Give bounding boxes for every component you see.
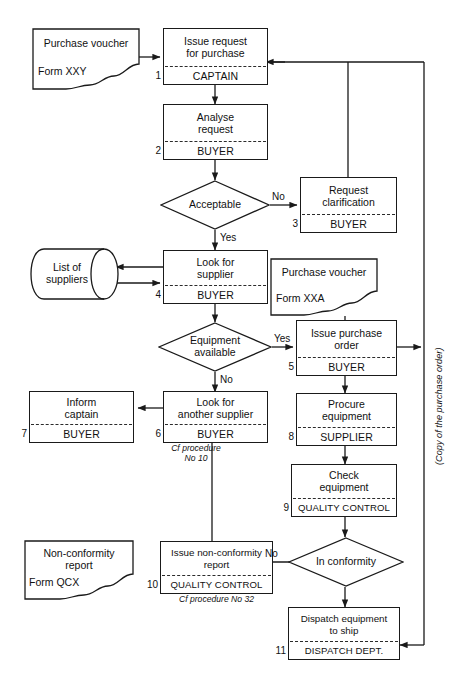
document-form-code: Form QCX — [29, 577, 79, 589]
decision-label: Acceptable — [185, 199, 245, 211]
edge-label-conformity-no: No — [265, 548, 278, 559]
step-box-3[interactable]: Requestclarification BUYER — [300, 177, 397, 233]
step-actor: BUYER — [164, 142, 267, 159]
step-actor: BUYER — [30, 425, 133, 442]
step-box-4[interactable]: Look forsupplier BUYER — [163, 250, 268, 304]
step-action: Procureequipment — [297, 394, 396, 427]
step-number-3: 3 — [287, 218, 298, 229]
step-box-10[interactable]: Issue non-conformityreport QUALITY CONTR… — [160, 541, 273, 594]
step-actor: QUALITY CONTROL — [292, 499, 396, 516]
datastore-label: List ofsuppliers — [34, 248, 100, 300]
step-box-9[interactable]: Checkequipment QUALITY CONTROL — [291, 464, 397, 517]
document-form-code: Form XXY — [38, 66, 86, 78]
step-number-2: 2 — [150, 145, 161, 156]
step-actor: DISPATCH DEPT. — [289, 642, 399, 659]
step-action: Look forsupplier — [164, 251, 267, 285]
document-non-conformity-report: Non-conformityreport Form QCX — [24, 540, 134, 600]
step-actor: QUALITY CONTROL — [161, 576, 272, 593]
step-action: Look foranother supplier — [164, 392, 267, 424]
decision-acceptable[interactable]: Acceptable — [160, 180, 270, 230]
step-number-6: 6 — [150, 428, 161, 439]
step-number-10: 10 — [143, 579, 158, 590]
step-box-8[interactable]: Procureequipment SUPPLIER — [296, 393, 397, 446]
decision-equipment-available[interactable]: Equipmentavailable — [158, 322, 272, 372]
step-box-1[interactable]: Issue requestfor purchase CAPTAIN — [163, 28, 268, 85]
step-actor: BUYER — [164, 286, 267, 303]
step-6-note: Cf procedure No 10 — [160, 444, 232, 463]
step-10-note: Cf procedure No 32 — [160, 595, 273, 605]
step-number-1: 1 — [150, 70, 161, 81]
step-box-2[interactable]: Analyserequest BUYER — [163, 104, 268, 160]
edge-label-acceptable-no: No — [272, 191, 285, 202]
document-title: Purchase voucher — [32, 38, 140, 50]
decision-label: In conformity — [312, 556, 380, 568]
step-actor: BUYER — [297, 358, 396, 375]
decision-label: Equipmentavailable — [186, 335, 244, 358]
document-title: Purchase voucher — [270, 267, 378, 279]
step-action: Analyserequest — [164, 105, 267, 141]
document-purchase-voucher-xxy: Purchase voucher Form XXY — [32, 28, 140, 90]
step-action: Dispatch equipmentto ship — [289, 608, 399, 641]
step-action: Issue purchaseorder — [297, 321, 396, 357]
document-form-code: Form XXA — [276, 293, 324, 305]
step-action: Checkequipment — [292, 465, 396, 498]
step-action: Issue non-conformityreport — [161, 542, 272, 575]
datastore-list-of-suppliers: List ofsuppliers — [30, 248, 120, 300]
step-actor: CAPTAIN — [164, 67, 267, 84]
document-purchase-voucher-xxa: Purchase voucher Form XXA — [270, 258, 378, 316]
step-actor: BUYER — [301, 215, 396, 232]
edge-label-equipment-no: No — [220, 374, 233, 385]
step-box-11[interactable]: Dispatch equipmentto ship DISPATCH DEPT. — [288, 607, 400, 660]
label-copy-of-purchase-order: (Copy of the purchase order) — [434, 348, 444, 465]
step-box-6[interactable]: Look foranother supplier BUYER — [163, 391, 268, 443]
step-actor: SUPPLIER — [297, 428, 396, 445]
edge-label-acceptable-yes: Yes — [220, 232, 236, 243]
step-number-8: 8 — [283, 431, 294, 442]
step-action: Requestclarification — [301, 178, 396, 214]
decision-in-conformity[interactable]: In conformity — [288, 537, 404, 587]
step-number-11: 11 — [271, 645, 286, 656]
step-actor: BUYER — [164, 425, 267, 442]
step-box-7[interactable]: Informcaptain BUYER — [29, 391, 134, 443]
step-box-5[interactable]: Issue purchaseorder BUYER — [296, 320, 397, 376]
step-number-7: 7 — [16, 428, 27, 439]
step-number-9: 9 — [278, 502, 289, 513]
step-action: Informcaptain — [30, 392, 133, 424]
step-number-5: 5 — [283, 361, 294, 372]
document-title: Non-conformityreport — [24, 548, 134, 571]
flowchart-canvas: Purchase voucher Form XXY Issue requestf… — [0, 0, 458, 695]
step-number-4: 4 — [150, 289, 161, 300]
edge-label-equipment-yes: Yes — [274, 333, 290, 344]
step-action: Issue requestfor purchase — [164, 29, 267, 66]
